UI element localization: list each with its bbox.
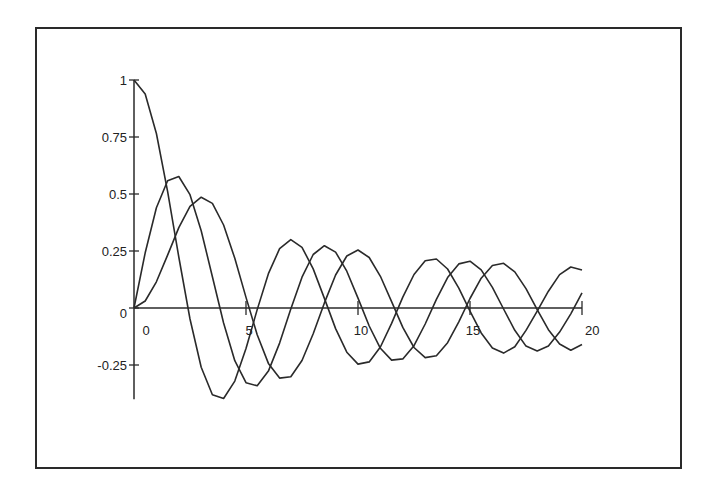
plot-lines [134,80,582,399]
y-tick-label: 0.75 [102,130,127,145]
y-tick-label: 1 [120,73,127,88]
x-tick-label: 15 [466,323,480,338]
y-tick-label: 0 [120,306,127,321]
x-tick-label: 0 [142,323,149,338]
x-tick-label: 20 [585,323,599,338]
y-tick-label: -0.25 [97,358,127,373]
series-line-j1 [134,177,582,386]
series-line-j0 [134,80,582,399]
y-tick-label: 0.25 [102,244,127,259]
series-line-j2 [134,197,582,378]
line-chart: 10.750.50.250-0.2505101520 [0,0,712,495]
x-tick-label: 5 [245,323,252,338]
x-tick-label: 10 [354,323,368,338]
y-tick-label: 0.5 [109,187,127,202]
